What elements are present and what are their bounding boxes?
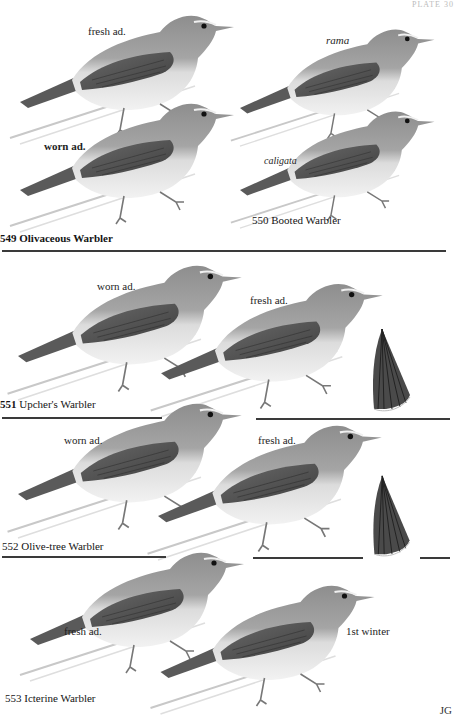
tail-feather-detail-552 <box>368 472 416 560</box>
bird-label: 1st winter <box>346 625 390 637</box>
bird-label: worn ad. <box>64 434 103 446</box>
plate-number: PLATE 30 <box>412 0 454 9</box>
bird-label: fresh ad. <box>250 294 288 306</box>
section-divider <box>420 557 450 559</box>
bird-label: fresh ad. <box>64 625 102 637</box>
artist-initials: JG <box>440 704 452 716</box>
species-caption-549: 549 Olivaceous Warbler <box>0 232 113 244</box>
tail-feather-detail-551 <box>368 325 416 415</box>
bird-label: fresh ad. <box>258 434 296 446</box>
section-divider <box>2 250 446 252</box>
bird-label: caligata <box>264 155 297 166</box>
bird-label: worn ad. <box>44 140 86 152</box>
bird-label: fresh ad. <box>88 25 126 37</box>
species-caption-550: 550 Booted Warbler <box>252 214 341 226</box>
bird-label: rama <box>326 34 349 46</box>
section-divider <box>253 557 363 559</box>
bird-illustration-553-1st-winter <box>158 580 383 720</box>
species-caption-553: 553 Icterine Warbler <box>5 692 96 704</box>
bird-illustration-549-worn <box>20 98 240 238</box>
bird-label: worn ad. <box>97 280 136 292</box>
